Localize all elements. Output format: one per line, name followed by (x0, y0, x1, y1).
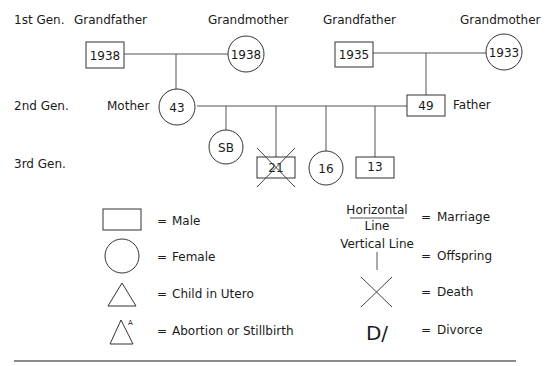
legend-equals-abortion: = (157, 324, 167, 338)
legend-male-box-icon (103, 209, 141, 230)
legend-utero-text: Child in Utero (172, 287, 254, 301)
paternal-grandmother-label: Grandmother (460, 13, 541, 27)
father-value: 49 (418, 99, 433, 113)
legend-equals-death: = (421, 285, 431, 299)
legend-horizontal-line-top: Horizontal (346, 203, 407, 217)
mother-label: Mother (107, 99, 149, 113)
legend-marriage-text: Marriage (437, 210, 490, 224)
legend-equals-female: = (157, 250, 167, 264)
legend-equals-marriage: = (421, 210, 431, 224)
pedigree-chart: 1st Gen. 2nd Gen. 3rd Gen. Grandfather G… (0, 0, 550, 366)
child-4-value: 13 (367, 160, 382, 174)
legend-divorce-symbol-icon: D/ (366, 321, 388, 345)
paternal-grandmother-value: 1933 (489, 46, 520, 60)
legend-equals-utero: = (157, 287, 167, 301)
legend-female-text: Female (172, 250, 215, 264)
legend-utero-triangle-icon (108, 283, 136, 306)
maternal-grandfather-value: 1938 (90, 49, 121, 63)
child-3-value: 16 (318, 162, 333, 176)
gen-label-second: 2nd Gen. (14, 99, 69, 113)
legend-male-text: Male (172, 214, 200, 228)
maternal-grandmother-label: Grandmother (208, 13, 289, 27)
legend-vertical-line-label: Vertical Line (340, 237, 414, 251)
legend-equals-male: = (157, 214, 167, 228)
maternal-grandfather-label: Grandfather (74, 13, 147, 27)
maternal-grandmother-value: 1938 (231, 48, 262, 62)
legend-offspring-text: Offspring (437, 249, 492, 263)
father-label: Father (453, 98, 491, 112)
legend-equals-offspring: = (421, 249, 431, 263)
legend-abortion-marker: A (128, 319, 133, 327)
child-1-value: SB (218, 141, 234, 155)
legend-female-circle-icon (105, 239, 139, 273)
gen-label-third: 3rd Gen. (14, 157, 66, 171)
mother-value: 43 (169, 101, 184, 115)
paternal-grandfather-value: 1935 (339, 48, 370, 62)
legend-death-text: Death (437, 285, 473, 299)
legend-equals-divorce: = (421, 323, 431, 337)
legend-divorce-text: Divorce (437, 323, 483, 337)
legend-abortion-text: Abortion or Stillbirth (172, 324, 294, 338)
legend-horizontal-line-bottom: Line (364, 219, 389, 233)
gen-label-first: 1st Gen. (14, 13, 65, 27)
paternal-grandfather-label: Grandfather (323, 13, 396, 27)
